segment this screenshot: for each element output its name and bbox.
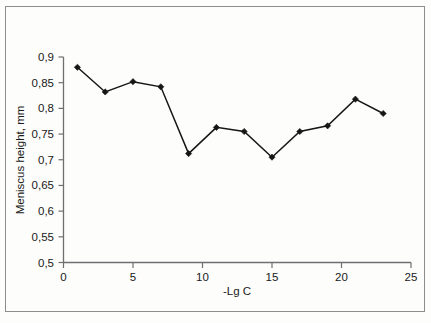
y-tick-label: 0,65 [32,179,54,191]
y-tick-label: 0,9 [38,51,54,63]
line-chart: 0,50,550,60,650,70,750,80,850,9 05101520… [0,0,431,323]
x-tick-label: 0 [60,271,66,283]
y-tick-label: 0,5 [38,257,54,269]
data-point-marker [130,79,136,85]
y-axis-ticks [59,57,64,263]
data-series-markers [74,64,386,160]
y-tick-label: 0,75 [32,128,54,140]
x-tick-label: 10 [196,271,209,283]
data-point-marker [380,110,386,116]
x-tick-label: 25 [405,271,418,283]
chart-figure: 0,50,550,60,650,70,750,80,850,9 05101520… [0,0,431,323]
y-axis-tick-labels: 0,50,550,60,650,70,750,80,850,9 [32,51,54,269]
y-tick-label: 0,55 [32,231,54,243]
y-tick-label: 0,6 [38,205,54,217]
data-series-line [77,67,383,157]
x-axis-title: -Lg C [223,285,251,297]
x-axis-tick-labels: 0510152025 [60,271,417,283]
y-tick-label: 0,7 [38,154,54,166]
x-tick-label: 5 [130,271,136,283]
x-axis-ticks [64,263,412,269]
x-tick-label: 20 [335,271,348,283]
data-point-marker [158,84,164,90]
y-axis-title: Meniscus height, mm [14,106,26,215]
x-tick-label: 15 [266,271,279,283]
y-tick-label: 0,8 [38,102,54,114]
y-tick-label: 0,85 [32,77,54,89]
